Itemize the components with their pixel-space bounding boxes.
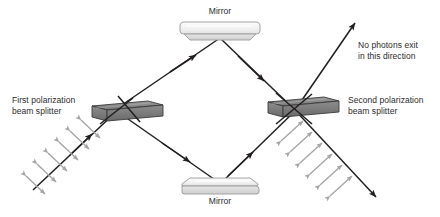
output-beam xyxy=(293,108,376,197)
polarization-arrow xyxy=(48,153,67,171)
polarization-arrow xyxy=(300,143,322,163)
polarization-arrow xyxy=(290,132,312,152)
upper-arm-return-arrowhead xyxy=(238,56,264,81)
polarization-arrow xyxy=(320,165,342,185)
no-photons-label-line1: No photons exit xyxy=(358,40,418,51)
lower-arm-out-arrowhead xyxy=(162,143,190,162)
first-splitter-label-line2: beam splitter xyxy=(12,106,61,117)
bottom-mirror-body xyxy=(182,186,259,194)
polarization-arrow xyxy=(26,176,45,194)
upper-arm-out-arrowhead xyxy=(170,55,196,72)
input-beam-arrowhead xyxy=(70,134,92,155)
polarization-arrow xyxy=(281,121,303,141)
polarization-arrow xyxy=(37,164,56,182)
bottom-mirror-label: Mirror xyxy=(196,196,244,207)
no-photons-label-line2: in this direction xyxy=(358,51,416,62)
second-splitter-label-line2: beam splitter xyxy=(348,106,397,117)
polarization-arrow xyxy=(330,176,352,196)
second-beam-splitter xyxy=(268,97,339,117)
input-polarization-markers xyxy=(26,120,100,194)
top-mirror-label: Mirror xyxy=(196,6,244,17)
polarization-arrow xyxy=(310,154,332,174)
first-beam-splitter xyxy=(92,101,163,121)
top-mirror xyxy=(180,22,260,40)
bottom-mirror-face xyxy=(182,178,259,186)
top-mirror-edge xyxy=(184,34,256,40)
first-splitter-label-line1: First polarization xyxy=(12,95,75,106)
lower-arm-return-arrowhead xyxy=(228,152,253,176)
bottom-mirror xyxy=(182,178,259,194)
optics-diagram: Mirror Mirror First polarization beam sp… xyxy=(0,0,440,217)
second-splitter-label-line1: Second polarization xyxy=(348,95,424,106)
top-mirror-body xyxy=(180,22,260,34)
